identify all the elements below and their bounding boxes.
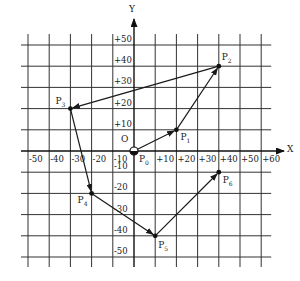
- point-label-p0: P0: [139, 155, 149, 166]
- x-tick-label: -20: [93, 155, 107, 164]
- point-label-p5: P5: [158, 241, 168, 252]
- x-axis-label: X: [287, 145, 293, 154]
- x-tick-label: +50: [241, 155, 259, 164]
- point-dot: [153, 233, 158, 238]
- y-tick-label: -10: [114, 162, 128, 171]
- vector-segment: [155, 174, 217, 236]
- y-tick-label: -40: [114, 226, 128, 235]
- y-tick-label: -50: [114, 247, 128, 256]
- coordinate-diagram: -50-40-30-20-10+10+20+30+40+50+60+50+40+…: [0, 0, 300, 281]
- coordinate-plane: [0, 0, 300, 281]
- point-dot: [174, 127, 179, 132]
- point-subscript: 1: [186, 137, 190, 144]
- x-tick-label: +20: [177, 155, 195, 164]
- point-subscript: 5: [164, 245, 168, 252]
- y-tick-label: +30: [114, 77, 132, 86]
- point-subscript: 6: [229, 180, 233, 187]
- point-dot: [68, 106, 73, 111]
- origin-label: O: [121, 135, 128, 144]
- point-dot: [216, 170, 221, 175]
- point-label-p6: P6: [223, 176, 233, 187]
- y-tick-label: -20: [114, 183, 128, 192]
- y-tick-label: +10: [114, 120, 132, 129]
- point-subscript: 0: [145, 159, 149, 166]
- point-label-p1: P1: [180, 133, 190, 144]
- point-subscript: 2: [228, 57, 232, 64]
- y-tick-label: +50: [114, 35, 132, 44]
- x-tick-label: +40: [220, 155, 238, 164]
- point-dot: [216, 64, 221, 69]
- x-tick-label: +60: [262, 155, 280, 164]
- x-tick-label: +30: [199, 155, 217, 164]
- point-label-p2: P2: [222, 53, 232, 64]
- y-tick-label: +20: [114, 99, 132, 108]
- axes: [21, 19, 284, 267]
- x-tick-label: -40: [50, 155, 64, 164]
- vector-segment: [70, 109, 91, 191]
- vector-segment: [134, 131, 174, 151]
- y-tick-label: +40: [114, 56, 132, 65]
- point-label-p4: P4: [78, 196, 88, 207]
- point-dot: [89, 191, 94, 196]
- y-tick-label: -30: [114, 205, 128, 214]
- x-tick-label: -30: [71, 155, 85, 164]
- point-label-p3: P3: [55, 97, 65, 108]
- y-axis-label: Y: [129, 5, 135, 14]
- x-tick-label: -50: [29, 155, 43, 164]
- point-subscript: 4: [84, 200, 88, 207]
- point-subscript: 3: [61, 100, 65, 107]
- x-tick-label: +10: [156, 155, 174, 164]
- vector-segment: [176, 68, 217, 130]
